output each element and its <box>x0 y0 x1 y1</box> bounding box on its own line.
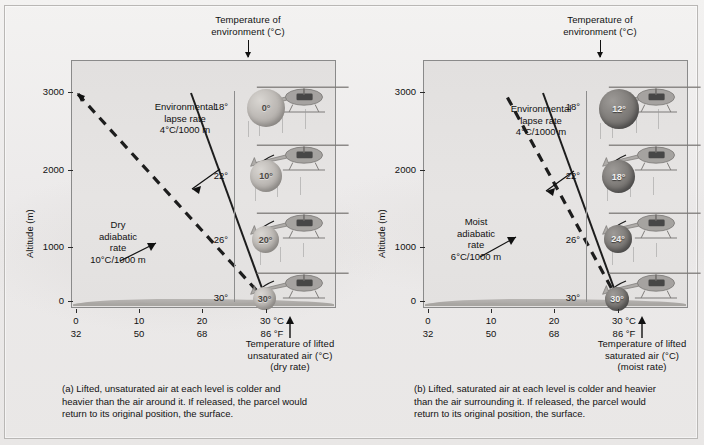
streak <box>300 177 301 195</box>
panel-b-ytick-0: 0 <box>382 295 416 306</box>
streak <box>653 177 654 195</box>
streak <box>656 243 657 257</box>
panel-a-unsaturated: Temperature of environment (°C) <box>0 0 352 445</box>
panel-b-caption: (b) Lifted, saturated air at each level … <box>414 383 669 421</box>
panel-a-header-arrow-icon <box>248 40 249 57</box>
panel-b-ytick-3000: 3000 <box>382 86 416 97</box>
parcel-balloon-1000: 20° <box>252 226 279 253</box>
parcel-annot-line2: adiabatic <box>428 228 524 240</box>
env-annot-line3: 4°C/1000 m <box>482 126 600 138</box>
panel-a-plot-area: 0° 10° 20° 30° 18° 22° 26° 30° Environme… <box>71 60 336 308</box>
parcel-temp-1000: 24° <box>611 234 625 244</box>
parcel-annot-line3: rate <box>428 239 524 251</box>
panel-a-caption: (a) Lifted, unsaturated air at each leve… <box>62 383 312 421</box>
panel-a-ytick-mark-1000 <box>68 247 73 248</box>
env-temp-1000: 26° <box>554 234 580 245</box>
parcel-balloon-3000: 12° <box>599 89 639 129</box>
parcel-temp-0: 30° <box>258 294 272 304</box>
parcel-balloon-0: 30° <box>253 287 276 310</box>
panel-a-ytick-3000: 3000 <box>30 86 64 97</box>
parcel-annot-line4: 10°C/1000 m <box>70 254 166 266</box>
panel-a-ytick-2000: 2000 <box>30 164 64 175</box>
parcel-temp-2000: 10° <box>259 171 273 181</box>
env-annot-line1: Environmental <box>482 103 600 115</box>
panel-a-parcel-annotation: Dry adiabatic rate 10°C/1000 m <box>70 219 166 265</box>
panel-b-environmental-annotation: Environmental lapse rate 4°C/1000 m <box>482 103 600 138</box>
panel-b-saturated: Temperature of environment (°C) <box>352 0 704 445</box>
panel-b-ytick-mark-2000 <box>420 170 425 171</box>
env-temp-2000: 22° <box>554 170 580 181</box>
panel-b-ytick-1000: 1000 <box>382 241 416 252</box>
panel-a-ytick-mark-3000 <box>68 92 73 93</box>
panel-a-footer: Temperature of lifted unsaturated air (°… <box>222 338 358 373</box>
parcel-temp-3000: 12° <box>612 104 626 114</box>
panel-a-ytick-1000: 1000 <box>30 241 64 252</box>
panel-a-header-line1: Temperature of <box>178 14 318 26</box>
panel-a-ytick-0: 0 <box>30 295 64 306</box>
parcel-balloon-3000: 0° <box>247 89 285 127</box>
streak <box>633 247 634 262</box>
panel-b-helicopters <box>424 61 689 309</box>
streak <box>612 251 613 265</box>
env-temp-0: 30° <box>202 292 228 303</box>
env-temp-1000: 26° <box>202 234 228 245</box>
panel-a-footer-line3: (dry rate) <box>222 361 358 373</box>
panel-b-footer-line2: saturated air (°C) <box>574 350 704 362</box>
streak <box>658 109 659 129</box>
panel-a-footer-line2: unsaturated air (°C) <box>222 350 358 362</box>
env-annot-line2: lapse rate <box>126 113 244 125</box>
panel-b-ytick-mark-3000 <box>420 92 425 93</box>
streak <box>303 243 304 257</box>
panel-b-plot-area: 12° 18° 24° 30° 18° 22° 26° 30° Environm… <box>423 60 688 308</box>
parcel-temp-0: 30° <box>610 294 624 304</box>
parcel-temp-1000: 20° <box>259 235 273 245</box>
parcel-balloon-0: 30° <box>605 287 629 311</box>
streak <box>305 109 306 129</box>
panel-b-header-line2: environment (°C) <box>530 26 670 38</box>
parcel-annot-line4: 6°C/1000 m <box>428 251 524 263</box>
parcel-balloon-1000: 24° <box>604 225 632 253</box>
panel-b-ytick-mark-1000 <box>420 247 425 248</box>
env-temp-0: 30° <box>554 292 580 303</box>
streak <box>280 247 281 262</box>
env-temp-2000: 22° <box>202 170 228 181</box>
panel-b-header: Temperature of environment (°C) <box>530 14 670 37</box>
streak <box>260 251 261 265</box>
streak <box>600 123 601 139</box>
panel-a-helicopters <box>72 61 337 309</box>
parcel-temp-2000: 18° <box>612 172 626 182</box>
streak <box>248 121 249 137</box>
parcel-temp-3000: 0° <box>262 103 271 113</box>
panel-b-footer-line3: (moist rate) <box>574 361 704 373</box>
parcel-balloon-2000: 18° <box>602 160 635 193</box>
parcel-annot-line3: rate <box>70 242 166 254</box>
parcel-annot-line1: Dry <box>70 219 166 231</box>
panel-a-ytick-mark-0 <box>68 301 73 302</box>
panel-a-ytick-mark-2000 <box>68 170 73 171</box>
env-annot-line3: 4°C/1000 m <box>126 124 244 136</box>
panel-b-ytick-2000: 2000 <box>382 164 416 175</box>
panel-a-environmental-annotation: Environmental lapse rate 4°C/1000 m <box>126 101 244 136</box>
panel-b-header-arrow-icon <box>600 40 601 57</box>
panel-a-header-line2: environment (°C) <box>178 26 318 38</box>
env-annot-line2: lapse rate <box>482 115 600 127</box>
panel-a-header: Temperature of environment (°C) <box>178 14 318 37</box>
panel-b-header-line1: Temperature of <box>530 14 670 26</box>
parcel-annot-line1: Moist <box>428 216 524 228</box>
panel-b-footer: Temperature of lifted saturated air (°C)… <box>574 338 704 373</box>
parcel-balloon-2000: 10° <box>250 160 282 192</box>
panel-b-footer-line1: Temperature of lifted <box>574 338 704 350</box>
panel-b-ytick-mark-0 <box>420 301 425 302</box>
parcel-annot-line2: adiabatic <box>70 231 166 243</box>
env-annot-line1: Environmental <box>126 101 244 113</box>
panel-a-footer-line1: Temperature of lifted <box>222 338 358 350</box>
panel-b-parcel-annotation: Moist adiabatic rate 6°C/1000 m <box>428 216 524 262</box>
